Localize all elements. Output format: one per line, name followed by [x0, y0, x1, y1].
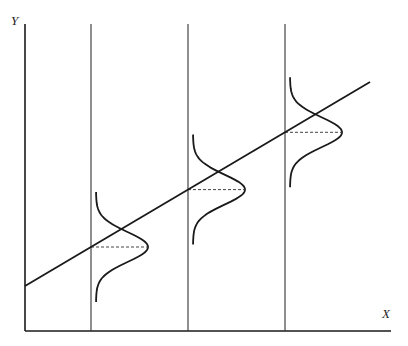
- regression-diagram: Y X: [0, 0, 408, 346]
- regression-line: [25, 82, 370, 286]
- y-axis-label: Y: [11, 13, 20, 28]
- x-axis-label: X: [381, 306, 391, 321]
